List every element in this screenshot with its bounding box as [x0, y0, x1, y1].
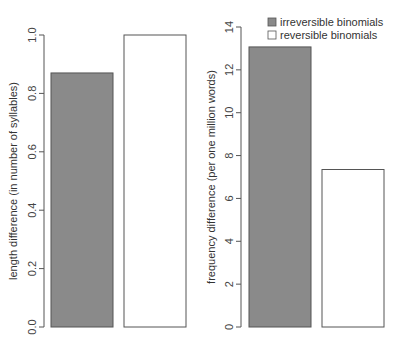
legend-label-reversible: reversible binomials: [280, 29, 378, 41]
bar-reversible-length: [124, 35, 186, 327]
right-tick-label: 14: [223, 21, 235, 33]
left-chart: 0.00.20.40.60.81.0 length difference (in…: [7, 27, 186, 334]
bar-irreversible-frequency: [249, 47, 311, 327]
legend-label-irreversible: irreversible binomials: [280, 16, 384, 28]
right-y-axis-label: frequency difference (per one million wo…: [205, 70, 217, 284]
right-chart: 02468101214 frequency difference (per on…: [205, 16, 384, 330]
right-tick-label: 0: [223, 324, 235, 330]
bar-reversible-frequency: [322, 170, 384, 328]
right-tick-label: 8: [223, 153, 235, 159]
right-tick-label: 2: [223, 281, 235, 287]
legend: irreversible binomials reversible binomi…: [268, 16, 384, 41]
left-tick-label: 0.8: [26, 86, 38, 101]
right-tick-label: 6: [223, 195, 235, 201]
left-y-axis-label: length difference (in number of syllable…: [7, 82, 19, 280]
right-tick-label: 12: [223, 64, 235, 76]
left-tick-label: 0.4: [26, 203, 38, 218]
figure: 0.00.20.40.60.81.0 length difference (in…: [0, 0, 394, 342]
legend-swatch-reversible: [268, 31, 276, 39]
bar-irreversible-length: [51, 73, 113, 327]
left-tick-label: 1.0: [26, 27, 38, 42]
left-tick-label: 0.6: [26, 144, 38, 159]
left-tick-label: 0.0: [26, 319, 38, 334]
right-tick-label: 10: [223, 107, 235, 119]
legend-swatch-irreversible: [268, 18, 276, 26]
left-tick-label: 0.2: [26, 261, 38, 276]
right-tick-label: 4: [223, 238, 235, 244]
